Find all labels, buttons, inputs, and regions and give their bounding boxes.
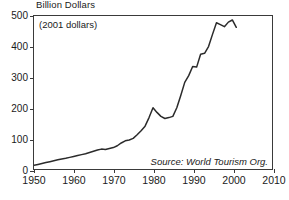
y-tick-label: 400: [11, 42, 28, 52]
x-tick-label: 1960: [62, 175, 85, 186]
y-tick-mark: [30, 16, 34, 17]
x-tick-mark: [74, 169, 75, 173]
x-tick-mark: [234, 169, 235, 173]
y-tick-mark: [30, 47, 34, 48]
y-axis-title: Billion Dollars: [36, 0, 95, 10]
x-tick-mark: [114, 169, 115, 173]
plot-area: (2001 dollars) Source: World Tourism Org…: [33, 15, 273, 170]
y-tick-label: 100: [11, 135, 28, 145]
data-series-line: [34, 16, 272, 169]
x-tick-label: 1970: [102, 175, 125, 186]
x-tick-label: 1950: [22, 175, 45, 186]
x-tick-label: 2000: [222, 175, 245, 186]
y-tick-label: 200: [11, 104, 28, 114]
x-tick-label: 1990: [182, 175, 205, 186]
x-tick-mark: [154, 169, 155, 173]
x-tick-label: 1980: [142, 175, 165, 186]
chart-figure: Billion Dollars (2001 dollars) Source: W…: [0, 0, 289, 200]
y-tick-mark: [30, 109, 34, 110]
y-tick-label: 300: [11, 73, 28, 83]
y-tick-mark: [30, 78, 34, 79]
y-tick-mark: [30, 140, 34, 141]
x-tick-label: 2010: [262, 175, 285, 186]
x-tick-mark: [194, 169, 195, 173]
x-tick-mark: [274, 169, 275, 173]
y-tick-label: 500: [11, 11, 28, 21]
x-tick-mark: [34, 169, 35, 173]
